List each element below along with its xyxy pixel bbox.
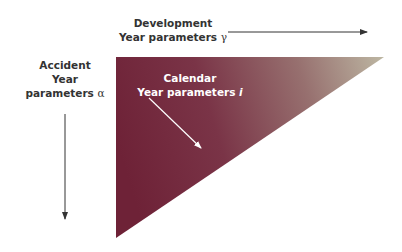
calendar-line1: Calendar [134,71,246,85]
development-line2: Year parameters γ [118,30,228,44]
i-symbol: i [239,86,243,98]
gamma-symbol: γ [221,31,227,43]
accident-line2: Year [20,72,110,86]
accident-label: Accident Year parameters α [20,58,110,100]
accident-line1: Accident [20,58,110,72]
calendar-label: Calendar Year parameters i [134,71,246,99]
development-line1: Development [118,16,228,30]
development-label: Development Year parameters γ [118,16,228,44]
accident-line3: parameters α [20,86,110,100]
calendar-line2: Year parameters i [134,85,246,99]
alpha-symbol: α [98,87,105,99]
